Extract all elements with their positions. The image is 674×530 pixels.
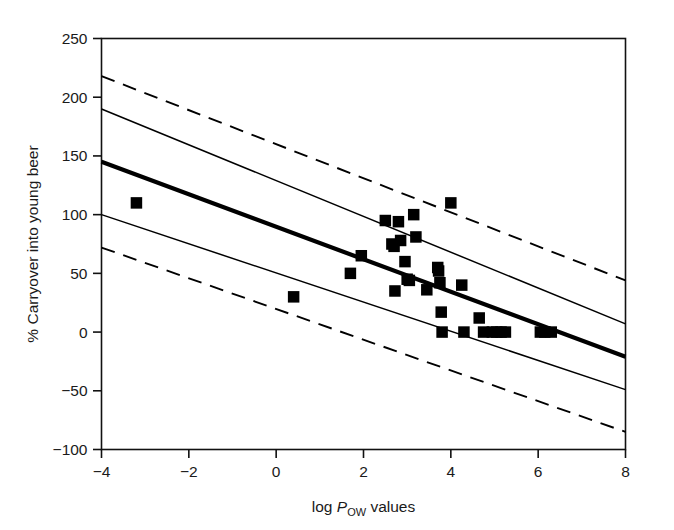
y-tick-label: 150 (62, 147, 88, 164)
data-point-marker (393, 216, 405, 228)
data-point-marker (433, 265, 445, 277)
data-point-marker (399, 256, 411, 268)
y-tick-label: 250 (62, 30, 88, 47)
y-tick-label: 50 (70, 265, 88, 282)
data-point-marker (421, 284, 433, 296)
data-point-marker (436, 326, 448, 338)
data-point-marker (356, 250, 368, 262)
x-title-italic-p: P (337, 498, 348, 515)
data-point-marker (546, 326, 558, 338)
y-tick-label: 100 (62, 206, 88, 223)
y-tick-label: −50 (61, 382, 88, 399)
data-point-marker (404, 275, 416, 287)
data-point-marker (500, 326, 512, 338)
data-point-marker (395, 235, 407, 247)
scatter-plot: −4−202468 −100−50050100150200250 log POW… (0, 0, 674, 530)
data-point-marker (288, 291, 300, 303)
y-axis-title: % Carryover into young beer (24, 145, 41, 342)
x-tick-label: 6 (534, 463, 543, 480)
data-point-marker (434, 277, 446, 289)
data-point-marker (410, 231, 422, 243)
data-point-marker (389, 285, 401, 297)
data-point-marker (345, 268, 357, 280)
x-title-pre: log (312, 498, 337, 515)
data-point-marker (131, 197, 143, 209)
x-tick-label: 8 (621, 463, 630, 480)
x-tick-label: 4 (447, 463, 456, 480)
x-tick-label: −4 (93, 463, 111, 480)
x-title-subscript: OW (347, 506, 367, 518)
figure-container: −4−202468 −100−50050100150200250 log POW… (0, 0, 674, 530)
x-tick-label: 0 (272, 463, 281, 480)
x-tick-label: −2 (180, 463, 198, 480)
data-point-marker (380, 215, 392, 227)
y-tick-label: −100 (53, 441, 88, 458)
data-point-marker (445, 197, 457, 209)
data-point-marker (435, 306, 447, 318)
y-tick-label: 200 (62, 89, 88, 106)
y-tick-label: 0 (79, 324, 88, 341)
data-point-marker (456, 279, 468, 291)
data-point-marker (458, 326, 470, 338)
data-point-marker (473, 312, 485, 324)
x-title-post: values (366, 498, 415, 515)
x-tick-label: 2 (359, 463, 368, 480)
data-point-marker (408, 209, 420, 221)
